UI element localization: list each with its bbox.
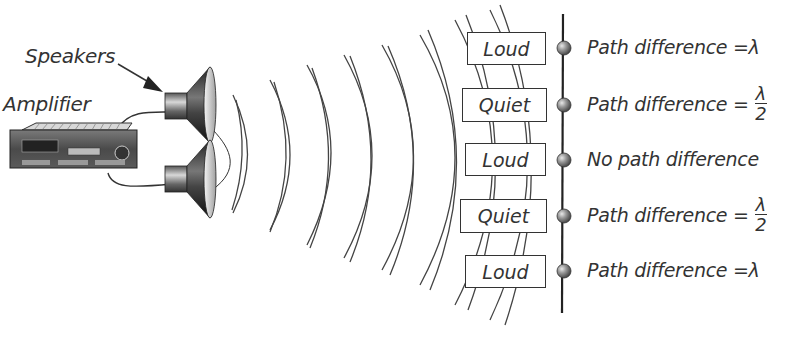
amplifier-icon <box>10 123 137 168</box>
state-box-loud: Loud <box>465 255 546 288</box>
state-box-loud: Loud <box>467 32 546 65</box>
state-box-quiet: Quiet <box>460 199 547 233</box>
amplifier-label: Amplifier <box>3 92 90 116</box>
detector-points <box>557 41 571 278</box>
speaker-top-icon <box>165 67 216 143</box>
point-ball-icon <box>557 209 571 223</box>
fraction-numerator: λ <box>755 84 767 104</box>
path-description: Path difference = <box>587 204 749 226</box>
speaker-bottom-icon <box>165 140 216 218</box>
path-difference-text: Path difference = λ 2 <box>587 195 767 234</box>
lambda-over-two: λ 2 <box>755 84 767 123</box>
point-ball-icon <box>557 153 571 167</box>
speakers-arrow-icon <box>118 64 163 92</box>
path-description: No path difference <box>587 148 759 170</box>
path-difference-text: Path difference = λ <box>587 36 760 58</box>
lambda-symbol: λ <box>749 259 760 281</box>
path-difference-text: No path difference <box>587 148 759 170</box>
state-box-quiet: Quiet <box>462 88 547 122</box>
speakers-label: Speakers <box>25 44 115 68</box>
fraction-numerator: λ <box>755 195 767 215</box>
fraction-denominator: 2 <box>755 215 766 234</box>
path-description: Path difference = <box>587 36 749 58</box>
path-description: Path difference = <box>587 259 749 281</box>
lambda-symbol: λ <box>749 36 760 58</box>
point-ball-icon <box>557 264 571 278</box>
path-difference-text: Path difference = λ <box>587 259 760 281</box>
point-ball-icon <box>557 98 571 112</box>
path-difference-text: Path difference = λ 2 <box>587 84 767 123</box>
lambda-over-two: λ 2 <box>755 195 767 234</box>
point-ball-icon <box>557 41 571 55</box>
path-description: Path difference = <box>587 93 749 115</box>
fraction-denominator: 2 <box>755 104 766 123</box>
state-box-loud: Loud <box>465 143 546 176</box>
